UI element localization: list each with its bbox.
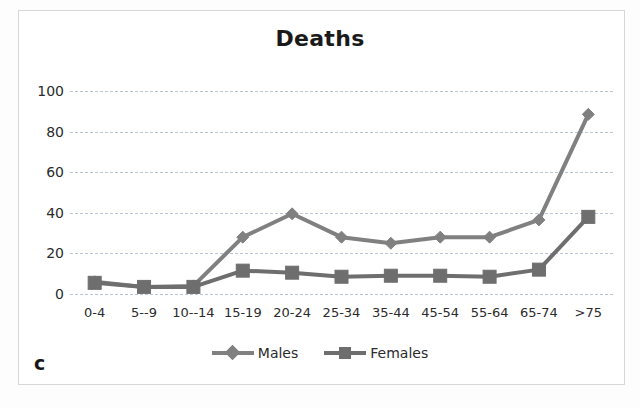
x-tick-label: 35-44 (372, 305, 410, 320)
data-point-diamond (336, 231, 348, 243)
data-point-diamond (582, 108, 594, 120)
series-layer (70, 91, 613, 294)
legend-label: Males (258, 345, 298, 361)
chart-title: Deaths (0, 26, 640, 51)
y-tick-label: 60 (22, 164, 64, 180)
series-females (88, 210, 595, 293)
x-tick-label: 10--14 (172, 305, 214, 320)
data-point-square (434, 269, 447, 282)
figure-panel: Deaths 020406080100 0-45--910--1415-1920… (0, 0, 640, 408)
y-tick-label: 20 (22, 245, 64, 261)
y-tick-label: 0 (22, 286, 64, 302)
data-point-diamond (533, 214, 545, 226)
x-tick-label: 55-64 (471, 305, 509, 320)
data-point-diamond (286, 208, 298, 220)
x-tick-label: 45-54 (421, 305, 459, 320)
data-point-diamond (484, 231, 496, 243)
data-point-square (286, 266, 299, 279)
x-tick-label: 5--9 (131, 305, 157, 320)
legend-entry-males[interactable]: Males (212, 345, 298, 361)
data-point-square (335, 270, 348, 283)
data-point-square (582, 210, 595, 223)
y-tick-label: 80 (22, 124, 64, 140)
data-point-diamond (385, 237, 397, 249)
x-tick-label: 25-34 (323, 305, 361, 320)
data-point-square (187, 280, 200, 293)
chart-legend: MalesFemales (0, 345, 640, 361)
data-point-square (532, 263, 545, 276)
x-tick-label: 65-74 (520, 305, 558, 320)
legend-swatch-square-icon (324, 346, 366, 360)
y-tick-label: 100 (22, 83, 64, 99)
data-point-square (384, 269, 397, 282)
legend-label: Females (370, 345, 428, 361)
legend-swatch-diamond-icon (212, 346, 254, 360)
data-point-square (236, 264, 249, 277)
data-point-square (483, 270, 496, 283)
x-tick-label: >75 (575, 305, 602, 320)
gridline (70, 294, 613, 295)
data-point-diamond (434, 231, 446, 243)
y-axis-tick-labels: 020406080100 (22, 91, 64, 294)
x-tick-label: 20-24 (273, 305, 311, 320)
panel-letter: c (34, 352, 45, 374)
series-line (95, 114, 589, 287)
series-males (89, 108, 595, 293)
x-tick-label: 0-4 (84, 305, 105, 320)
x-tick-label: 15-19 (224, 305, 262, 320)
plot-area (70, 91, 613, 294)
legend-entry-females[interactable]: Females (324, 345, 428, 361)
x-axis-tick-labels: 0-45--910--1415-1920-2425-3435-4445-5455… (70, 305, 613, 329)
y-tick-label: 40 (22, 205, 64, 221)
data-point-square (88, 276, 101, 289)
data-point-square (138, 280, 151, 293)
